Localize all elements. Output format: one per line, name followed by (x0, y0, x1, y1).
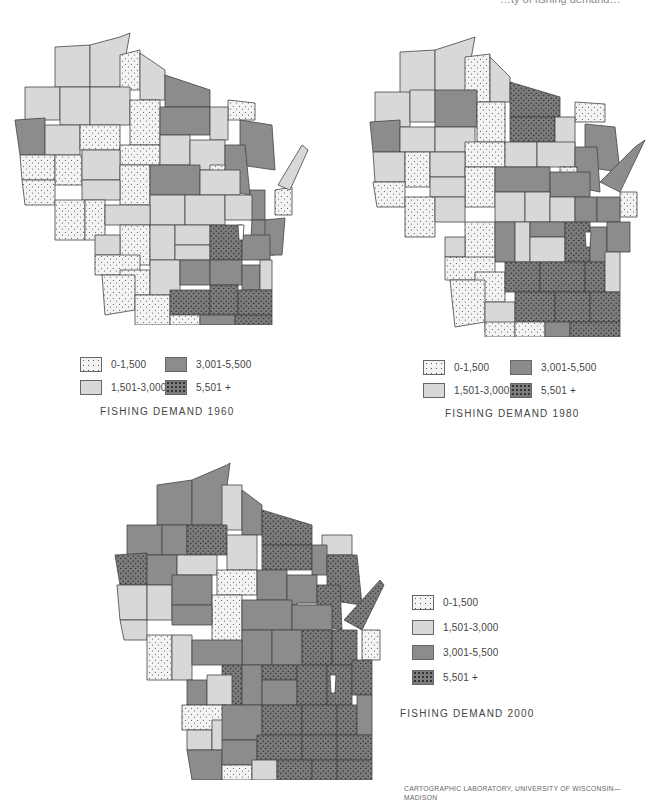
legend-item-3001-5500-1980: 3,001-5,500 (510, 360, 597, 375)
legend-label: 0-1,500 (443, 597, 478, 608)
legend-label: 5,501 + (443, 672, 478, 683)
legend-item-1501-3000-1960: 1,501-3,000 (80, 380, 167, 395)
legend-label: 1,501-3,000 (454, 385, 510, 396)
legend-label: 5,501 + (541, 385, 576, 396)
legend-label: 3,001-5,500 (443, 647, 499, 658)
map-2000 (112, 455, 412, 780)
light-gray-swatch-icon (423, 383, 445, 398)
dots-light-swatch-icon (423, 360, 445, 375)
legend-item-0-1500-2000: 0-1,500 (412, 595, 478, 610)
dots-light-swatch-icon (412, 595, 434, 610)
dots-dark-swatch-icon (412, 670, 434, 685)
light-gray-swatch-icon (80, 380, 102, 395)
dark-gray-swatch-icon (165, 357, 187, 372)
legend-item-5501-plus-1980: 5,501 + (510, 383, 576, 398)
legend-item-0-1500-1980: 0-1,500 (423, 360, 489, 375)
dots-dark-swatch-icon (165, 380, 187, 395)
map-1960 (10, 15, 310, 325)
dots-dark-swatch-icon (510, 383, 532, 398)
legend-item-5501-plus-2000: 5,501 + (412, 670, 478, 685)
legend-label: 1,501-3,000 (111, 382, 167, 393)
dark-gray-swatch-icon (510, 360, 532, 375)
legend-label: 0-1,500 (111, 359, 146, 370)
legend-item-1501-3000-2000: 1,501-3,000 (412, 620, 499, 635)
legend-item-1501-3000-1980: 1,501-3,000 (423, 383, 510, 398)
legend-label: 3,001-5,500 (541, 362, 597, 373)
legend-item-3001-5500-2000: 3,001-5,500 (412, 645, 499, 660)
map-title-1980: FISHING DEMAND 1980 (445, 408, 580, 419)
legend-item-5501-plus-1960: 5,501 + (165, 380, 231, 395)
dots-light-swatch-icon (80, 357, 102, 372)
map-1980 (365, 22, 665, 337)
legend-item-3001-5500-1960: 3,001-5,500 (165, 357, 252, 372)
legend-label: 1,501-3,000 (443, 622, 499, 633)
cutoff-header-text: …ty of fishing demand… (500, 0, 620, 5)
legend-label: 0-1,500 (454, 362, 489, 373)
dark-gray-swatch-icon (412, 645, 434, 660)
legend-label: 5,501 + (196, 382, 231, 393)
credit-text: CARTOGRAPHIC LABORATORY, UNIVERSITY OF W… (404, 784, 644, 802)
legend-label: 3,001-5,500 (196, 359, 252, 370)
map-title-1960: FISHING DEMAND 1960 (100, 406, 235, 417)
light-gray-swatch-icon (412, 620, 434, 635)
map-title-2000: FISHING DEMAND 2000 (400, 708, 535, 719)
legend-item-0-1500-1960: 0-1,500 (80, 357, 146, 372)
